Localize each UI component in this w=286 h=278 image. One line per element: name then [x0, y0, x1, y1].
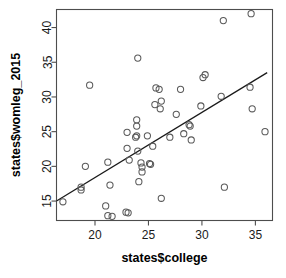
data-point — [221, 184, 227, 190]
data-point — [135, 55, 141, 61]
data-point — [198, 103, 204, 109]
data-point — [262, 129, 268, 135]
y-tick-label: 25 — [41, 125, 55, 139]
y-tick-label: 30 — [41, 90, 55, 104]
y-axis-title: states$womleg_2015 — [9, 53, 23, 177]
data-point — [158, 98, 164, 104]
data-point — [138, 160, 144, 166]
data-point — [249, 106, 255, 112]
plot-frame — [57, 10, 273, 221]
regression-line — [57, 73, 268, 201]
y-tick-label: 15 — [41, 194, 55, 208]
data-point — [136, 179, 142, 185]
data-point — [188, 137, 194, 143]
data-point — [126, 157, 132, 163]
y-tick-label: 20 — [41, 159, 55, 173]
data-point — [218, 93, 224, 99]
data-point — [82, 163, 88, 169]
y-tick-label: 40 — [41, 21, 55, 35]
data-point — [177, 86, 183, 92]
data-point — [220, 18, 226, 24]
data-point — [87, 82, 93, 88]
data-point — [107, 182, 113, 188]
data-point — [124, 145, 130, 151]
data-point — [105, 159, 111, 165]
x-tick-label: 25 — [142, 228, 156, 242]
data-point — [167, 134, 173, 140]
x-axis-title: states$college — [121, 251, 207, 265]
data-point — [144, 133, 150, 139]
x-tick-label: 35 — [249, 228, 263, 242]
data-point — [109, 213, 115, 219]
data-point — [134, 123, 140, 129]
y-tick-label: 35 — [41, 55, 55, 69]
x-tick-label: 30 — [195, 228, 209, 242]
data-point — [181, 131, 187, 137]
data-point — [173, 111, 179, 117]
data-point — [157, 106, 163, 112]
data-point — [247, 84, 253, 90]
data-point — [158, 195, 164, 201]
scatter-plot-figure: 20253035152025303540states$collegestates… — [0, 0, 286, 278]
data-point — [103, 203, 109, 209]
x-tick-label: 20 — [88, 228, 102, 242]
data-point — [124, 129, 130, 135]
data-point — [150, 143, 156, 149]
chart-canvas: 20253035152025303540states$collegestates… — [0, 0, 286, 278]
data-point — [248, 11, 254, 17]
data-point — [152, 101, 158, 107]
data-point — [60, 199, 66, 205]
data-point — [134, 117, 140, 123]
